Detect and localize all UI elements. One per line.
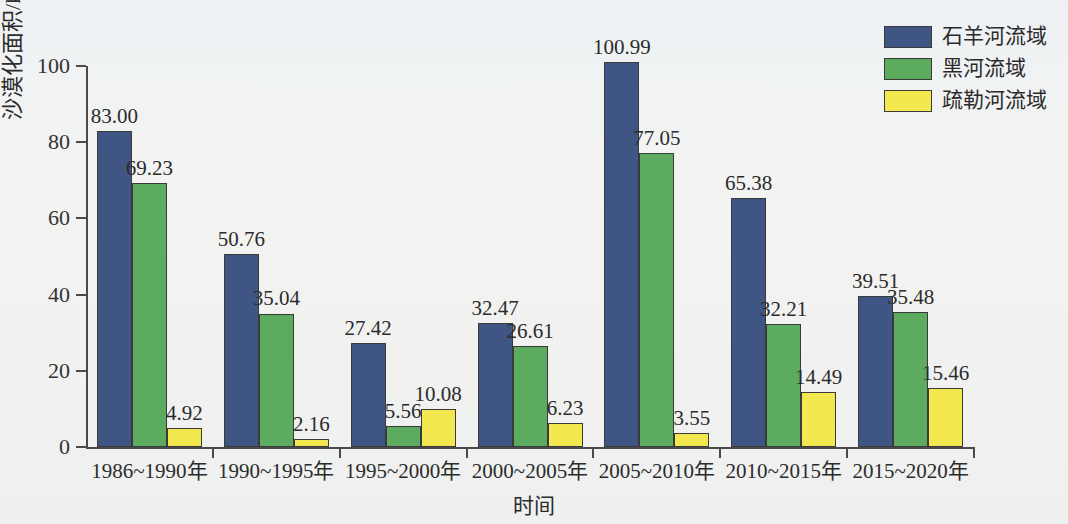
x-axis-line	[86, 447, 975, 449]
bar	[801, 392, 836, 447]
bar	[224, 254, 259, 447]
x-axis-tick	[973, 449, 975, 458]
x-axis-tick-label: 2010~2015年	[714, 459, 854, 483]
x-axis-tick-label: 2000~2005年	[460, 459, 600, 483]
x-axis-tick	[212, 449, 214, 458]
bar-value-label: 4.92	[148, 403, 220, 424]
y-axis-tick-label: 40	[14, 284, 70, 306]
x-axis-tick-label: 1986~1990年	[79, 459, 219, 483]
bar	[351, 343, 386, 447]
bar-value-label: 65.38	[713, 173, 785, 194]
chart-legend: 石羊河流域黑河流域疏勒河流域	[884, 22, 1047, 118]
bar-value-label: 69.23	[113, 158, 185, 179]
legend-color-swatch	[884, 90, 932, 112]
y-axis-tick-label: 0	[14, 436, 70, 458]
legend-color-swatch	[884, 26, 932, 48]
bar	[513, 346, 548, 447]
bar-value-label: 83.00	[78, 106, 150, 127]
y-axis-tick	[76, 370, 86, 372]
bar	[604, 62, 639, 447]
bar-value-label: 77.05	[621, 128, 693, 149]
bar-value-label: 26.61	[494, 321, 566, 342]
bar	[731, 198, 766, 447]
bar	[928, 388, 963, 447]
y-axis-tick	[76, 294, 86, 296]
legend-item[interactable]: 疏勒河流域	[884, 86, 1047, 115]
legend-label: 石羊河流域	[942, 26, 1047, 47]
plot-area	[86, 66, 974, 447]
y-axis-tick	[76, 65, 86, 67]
bar-value-label: 14.49	[783, 367, 855, 388]
bar	[294, 439, 329, 447]
x-axis-tick	[846, 449, 848, 458]
bar-value-label: 32.47	[459, 298, 531, 319]
bar	[674, 433, 709, 447]
y-axis-tick-label: 100	[14, 55, 70, 77]
x-axis-tick	[719, 449, 721, 458]
bar-value-label: 3.55	[656, 408, 728, 429]
bar-value-label: 100.99	[586, 37, 658, 58]
chart-container: 沙漠化面积/km2 020406080100 83.0069.234.9250.…	[0, 0, 1068, 524]
x-axis-tick	[466, 449, 468, 458]
bar-value-label: 35.04	[240, 288, 312, 309]
y-axis-tick	[76, 446, 86, 448]
legend-label: 黑河流域	[942, 58, 1026, 79]
bar	[858, 296, 893, 447]
bar	[386, 426, 421, 447]
y-axis-tick-label: 60	[14, 207, 70, 229]
bar-value-label: 35.48	[875, 287, 947, 308]
bar-value-label: 15.46	[910, 363, 982, 384]
x-axis-tick	[339, 449, 341, 458]
y-axis-tick-label: 80	[14, 131, 70, 153]
x-axis-tick-label: 2015~2020年	[841, 459, 981, 483]
bar-value-label: 10.08	[402, 384, 474, 405]
bar	[167, 428, 202, 447]
x-axis-title: 时间	[0, 489, 1068, 519]
bar-value-label: 2.16	[275, 414, 347, 435]
bar	[639, 153, 674, 447]
bar-value-label: 27.42	[332, 318, 404, 339]
legend-color-swatch	[884, 58, 932, 80]
legend-item[interactable]: 石羊河流域	[884, 22, 1047, 51]
x-axis-tick	[592, 449, 594, 458]
x-axis-tick-label: 2005~2010年	[587, 459, 727, 483]
x-axis-tick-label: 1995~2000年	[333, 459, 473, 483]
legend-item[interactable]: 黑河流域	[884, 54, 1047, 83]
bar-value-label: 32.21	[748, 299, 820, 320]
x-axis-tick-label: 1990~1995年	[206, 459, 346, 483]
y-axis-tick	[76, 217, 86, 219]
y-axis-tick	[76, 141, 86, 143]
bar	[548, 423, 583, 447]
legend-label: 疏勒河流域	[942, 90, 1047, 111]
bar-value-label: 50.76	[205, 229, 277, 250]
y-axis-tick-label: 20	[14, 360, 70, 382]
bar-value-label: 6.23	[529, 398, 601, 419]
